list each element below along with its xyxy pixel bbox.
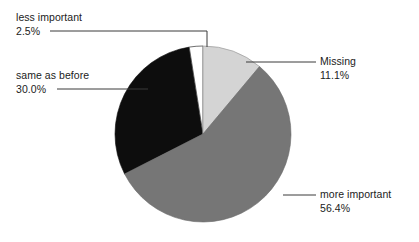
pie-label-same-as-before-percent: 30.0% [16, 83, 89, 97]
pie-label-more-important-percent: 56.4% [320, 202, 391, 216]
pie-label-less-important: less important 2.5% [16, 11, 82, 38]
pie-label-missing-name: Missing [320, 55, 356, 69]
pie-chart: less important 2.5% same as before 30.0%… [0, 0, 419, 242]
pie-label-more-important-name: more important [320, 188, 391, 202]
pie-label-same-as-before: same as before 30.0% [16, 69, 89, 96]
pie-label-missing-percent: 11.1% [320, 69, 356, 83]
pie-label-less-important-name: less important [16, 11, 82, 25]
pie-label-more-important: more important 56.4% [320, 188, 391, 215]
pie-label-missing: Missing 11.1% [320, 55, 356, 82]
pie-label-same-as-before-name: same as before [16, 69, 89, 83]
pie-label-less-important-percent: 2.5% [16, 25, 82, 39]
